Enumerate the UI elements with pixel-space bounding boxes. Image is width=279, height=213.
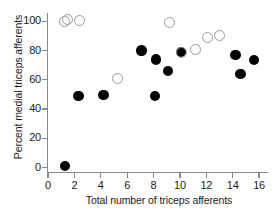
x-tick-mark xyxy=(232,173,233,178)
x-tick-label: 10 xyxy=(169,179,191,191)
x-tick-mark xyxy=(153,173,154,178)
data-point-open xyxy=(164,17,175,28)
x-tick-mark xyxy=(258,173,259,178)
data-point-filled xyxy=(230,50,241,61)
x-tick-label: 4 xyxy=(90,179,112,191)
x-axis-line xyxy=(47,172,268,173)
data-point-filled xyxy=(98,90,109,101)
data-point-open xyxy=(190,44,201,55)
data-point-open xyxy=(214,30,225,41)
y-tick-mark xyxy=(42,138,47,139)
data-point-filled xyxy=(235,69,246,80)
data-point-open xyxy=(62,14,73,25)
x-tick-mark xyxy=(100,173,101,178)
x-tick-label: 0 xyxy=(37,179,59,191)
x-tick-label: 12 xyxy=(195,179,217,191)
x-tick-label: 14 xyxy=(222,179,244,191)
data-point-filled xyxy=(136,45,147,56)
x-tick-label: 6 xyxy=(116,179,138,191)
data-point-filled xyxy=(73,91,84,102)
y-tick-mark xyxy=(42,79,47,80)
x-tick-mark xyxy=(74,173,75,178)
y-tick-mark xyxy=(42,108,47,109)
x-tick-mark xyxy=(179,173,180,178)
x-tick-label: 2 xyxy=(63,179,85,191)
x-tick-mark xyxy=(206,173,207,178)
x-tick-label: 8 xyxy=(143,179,165,191)
x-axis-title: Total number of triceps afferents xyxy=(44,194,274,206)
data-point-filled xyxy=(151,54,162,65)
data-point-open xyxy=(202,32,213,43)
x-tick-mark xyxy=(127,173,128,178)
y-tick-mark xyxy=(42,167,47,168)
y-axis-title: Percent medial triceps afferents xyxy=(12,2,24,172)
scatter-plot-figure: 020406080100 0246810121416 Percent media… xyxy=(0,0,279,213)
y-tick-mark xyxy=(42,21,47,22)
x-tick-mark xyxy=(47,173,48,178)
x-tick-label: 16 xyxy=(248,179,270,191)
y-tick-mark xyxy=(42,50,47,51)
data-point-open xyxy=(176,47,187,58)
